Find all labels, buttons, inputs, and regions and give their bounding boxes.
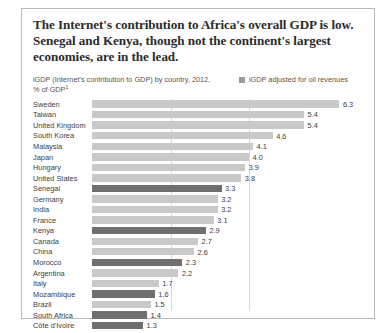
chart-bar [92,216,214,223]
chart-bar [92,259,182,266]
chart-bar-area: 3.9 [92,162,363,173]
chart-bar-value: 2.9 [209,226,219,235]
chart-bar [92,195,218,202]
chart-bar-area: 5.4 [92,110,363,121]
chart-bar-value: 3.8 [245,174,255,183]
chart-row-label: United States [33,174,92,183]
chart-row: South Korea4.6 [33,131,363,142]
chart-row: France3.1 [33,215,363,226]
chart-bar [92,121,304,128]
chart-bar-value: 2.7 [202,237,212,246]
chart-bar-value: 1.4 [150,311,160,320]
chart-row-label: Germany [33,195,92,204]
chart-bar-area: 3.1 [92,215,363,226]
chart-row: Argentina2.2 [33,268,363,279]
chart-bar [92,290,155,297]
chart-bar-value: 5.4 [308,110,318,119]
chart-row: Malaysia4.1 [33,141,363,152]
chart-bar-value: 4.6 [276,132,286,141]
chart-row-label: Mozambique [33,290,92,299]
chart-subtitle: iGDP (Internet's contribution to GDP) by… [33,75,213,95]
chart-subtitle-text: iGDP (Internet's contribution to GDP) by… [33,75,210,94]
chart-bar-value: 1.3 [147,321,157,330]
chart-bar [92,311,147,318]
chart-bar [92,164,245,171]
chart-row-label: France [33,216,92,225]
chart-row-label: India [33,205,92,214]
chart-row: Hungary3.9 [33,162,363,173]
chart-row-label: South Africa [33,311,92,320]
chart-row-label: Malaysia [33,142,92,151]
chart-bar-value: 1.5 [154,300,164,309]
chart-bar-area: 1.4 [92,310,363,321]
chart-row: Mozambique1.6 [33,289,363,300]
chart-bar [92,111,304,118]
chart-bar [92,206,218,213]
chart-bar [92,280,159,287]
chart-row: India3.2 [33,204,363,215]
chart-row-label: China [33,247,92,256]
bar-chart-plot: Sweden6.3Taiwan5.4United Kingdom5.4South… [33,99,363,311]
chart-bar [92,132,273,139]
chart-bar [92,143,253,150]
chart-row: Italy1.7 [33,278,363,289]
chart-row: Sweden6.3 [33,99,363,110]
chart-bar-value: 6.3 [343,100,353,109]
chart-row-label: Argentina [33,269,92,278]
chart-row: Germany3.2 [33,194,363,205]
chart-bar [92,248,194,255]
legend-label: iGDP adjusted for oil revenues [249,75,348,84]
chart-row: South Africa1.4 [33,310,363,321]
chart-bar [92,227,206,234]
chart-bar-area: 1.7 [92,278,363,289]
footnote-marker: 1 [65,84,68,90]
chart-bar-area: 2.9 [92,226,363,237]
chart-row: Morocco2.3 [33,257,363,268]
page-title: The Internet's contribution to Africa's … [33,17,363,66]
chart-bar-value: 5.4 [308,121,318,130]
chart-bar [92,100,339,107]
chart-bar-value: 4.1 [257,142,267,151]
chart-row: United States3.8 [33,173,363,184]
chart-bar-value: 3.2 [221,195,231,204]
chart-bar-value: 3.1 [217,216,227,225]
chart-bar-area: 2.7 [92,236,363,247]
chart-bar-value: 2.2 [182,269,192,278]
chart-bar-area: 2.3 [92,257,363,268]
chart-bar-value: 1.6 [158,290,168,299]
chart-bar [92,238,198,245]
chart-row: Canada2.7 [33,236,363,247]
chart-row-label: Japan [33,153,92,162]
chart-bar-value: 3.9 [249,163,259,172]
chart-bar [92,301,151,308]
chart-bar-area: 1.6 [92,289,363,300]
chart-row: China2.6 [33,247,363,258]
chart-row: Taiwan5.4 [33,110,363,121]
chart-row-label: South Korea [33,131,92,140]
chart-row-label: Brazil [33,300,92,309]
chart-row-label: Côte d'Ivoire [33,321,92,330]
chart-row: United Kingdom5.4 [33,120,363,131]
chart-bar-value: 3.2 [221,205,231,214]
chart-bar-value: 2.6 [198,248,208,257]
chart-row-label: Morocco [33,258,92,267]
chart-row: Senegal3.3 [33,183,363,194]
chart-row: Côte d'Ivoire1.3 [33,320,363,331]
chart-row: Kenya2.9 [33,226,363,237]
chart-legend: iGDP adjusted for oil revenues [239,75,348,84]
chart-bar-value: 2.3 [186,258,196,267]
chart-row: Brazil1.5 [33,299,363,310]
chart-row: Japan4.0 [33,152,363,163]
chart-bar-area: 1.5 [92,299,363,310]
chart-row-label: United Kingdom [33,121,92,130]
chart-bar-area: 2.2 [92,268,363,279]
chart-bar-area: 4.0 [92,152,363,163]
chart-row-label: Hungary [33,163,92,172]
chart-bar-value: 1.7 [162,279,172,288]
chart-row-label: Italy [33,279,92,288]
chart-bar-area: 3.8 [92,173,363,184]
chart-bar [92,174,241,181]
chart-bar [92,153,249,160]
chart-bar-value: 4.0 [253,153,263,162]
chart-row-label: Senegal [33,184,92,193]
